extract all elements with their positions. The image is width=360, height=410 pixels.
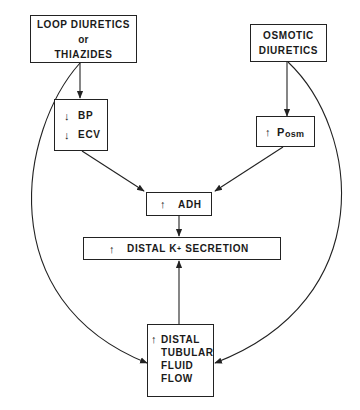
- node-label: THIAZIDES: [54, 47, 112, 62]
- arrow-down-icon: ↓: [64, 129, 70, 141]
- flow-row-1: ↑ DISTAL: [151, 333, 213, 346]
- flow-label: DISTAL: [161, 333, 200, 346]
- ecv-label: ECV: [78, 129, 100, 140]
- arrow-up-icon: ↑: [265, 126, 271, 138]
- flow-label: FLUID: [151, 359, 213, 372]
- posm-row: ↑ P osm: [265, 122, 314, 141]
- posm-label: P: [277, 126, 285, 138]
- k-secretion-label-post: SECRETION: [182, 243, 249, 254]
- node-adh: ↑ ADH: [146, 192, 212, 216]
- node-bp-ecv: ↓ BP ↓ ECV: [54, 99, 108, 151]
- node-label: or: [78, 32, 89, 47]
- node-distal-tubular-fluid-flow: ↑ DISTAL TUBULAR FLUID FLOW: [147, 324, 214, 397]
- arrow-down-icon: ↓: [64, 110, 70, 122]
- node-label: LOOP DIURETICS: [37, 17, 130, 32]
- node-posm: ↑ P osm: [256, 116, 315, 147]
- flow-label: TUBULAR: [151, 346, 213, 359]
- ecv-row: ↓ ECV: [64, 125, 107, 144]
- node-osmotic-diuretics: OSMOTIC DIURETICS: [250, 24, 327, 62]
- posm-subscript: osm: [285, 129, 304, 139]
- arrow-osmotic-to-flow: [215, 62, 342, 363]
- node-label: OSMOTIC: [263, 28, 314, 43]
- k-secretion-label-pre: DISTAL K: [127, 243, 177, 254]
- node-loop-diuretics: LOOP DIURETICS or THIAZIDES: [30, 15, 137, 63]
- arrow-up-icon: ↑: [109, 243, 115, 255]
- node-distal-k-secretion: ↑ DISTAL K+ SECRETION: [83, 237, 281, 260]
- bp-label: BP: [78, 110, 93, 121]
- bp-row: ↓ BP: [64, 106, 107, 125]
- arrow-up-icon: ↑: [151, 333, 161, 346]
- arrow-bp-to-adh: [82, 151, 144, 191]
- flow-label: FLOW: [151, 372, 213, 385]
- arrow-posm-to-adh: [215, 147, 283, 191]
- arrow-up-icon: ↑: [160, 198, 166, 210]
- adh-label: ADH: [178, 199, 201, 210]
- node-label: DIURETICS: [259, 43, 318, 58]
